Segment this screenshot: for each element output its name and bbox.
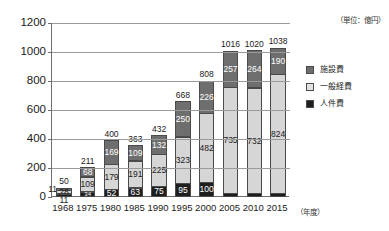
bar-segment-facility[interactable]: 257: [223, 51, 239, 88]
bar-segment-personnel[interactable]: 24: [247, 193, 263, 196]
bar-segment-general[interactable]: 323: [175, 137, 191, 184]
bar-segment-facility[interactable]: 226: [199, 81, 215, 114]
y-axis-label: 1000: [20, 46, 46, 58]
bar-segment-personnel[interactable]: 11: [56, 194, 72, 197]
bar-total-label: 432: [152, 125, 166, 134]
legend-item[interactable]: 一般経費: [306, 83, 352, 91]
bar-segment-general[interactable]: 482: [199, 113, 215, 183]
gridline: [52, 23, 290, 24]
bar-segment-personnel[interactable]: 100: [199, 182, 215, 197]
bar-segment-personnel[interactable]: 75: [151, 186, 167, 197]
y-axis-tick: [48, 168, 52, 169]
x-axis-label-2015: 2015: [267, 203, 288, 213]
y-axis-label: 200: [27, 162, 46, 174]
bar-segment-general[interactable]: 735: [223, 87, 239, 194]
bar-chart: （単位：億円） 11281150681093421116917952400109…: [0, 0, 389, 231]
bar-group[interactable]: 190824241038: [270, 48, 286, 196]
gridline: [52, 168, 290, 169]
y-axis-tick: [48, 81, 52, 82]
y-axis-tick: [48, 139, 52, 140]
segment-value-label: 52: [107, 189, 116, 198]
bar-segment-personnel[interactable]: 34: [80, 192, 96, 197]
segment-value-label: 482: [200, 144, 214, 153]
bar-segment-facility[interactable]: 169: [104, 140, 120, 165]
x-axis-label-1975: 1975: [76, 203, 97, 213]
gridline: [52, 139, 290, 140]
segment-value-label: 226: [200, 93, 214, 102]
bar-total-label: 668: [176, 91, 190, 100]
segment-value-label: 68: [83, 168, 92, 177]
bar-group[interactable]: 11281150: [56, 188, 72, 196]
bar-segment-personnel[interactable]: 24: [223, 193, 239, 196]
legend-label: 人件費: [320, 100, 344, 108]
bar-segment-facility[interactable]: 250: [175, 101, 191, 137]
chart-legend: 施設費一般経費人件費: [306, 66, 352, 108]
x-axis-label-1968: 1968: [52, 203, 73, 213]
segment-value-label: 75: [154, 187, 163, 196]
segment-value-label: 34: [84, 191, 91, 197]
bar-total-label: 211: [81, 157, 95, 166]
x-axis-label-2000: 2000: [195, 203, 216, 213]
segment-value-label: 63: [131, 188, 140, 197]
legend-label: 一般経費: [320, 83, 352, 91]
segment-value-label: 250: [176, 115, 190, 124]
bar-total-label: 1016: [221, 40, 240, 49]
legend-item[interactable]: 施設費: [306, 66, 352, 74]
bar-segment-personnel[interactable]: 52: [104, 189, 120, 197]
segment-value-label: 323: [176, 156, 190, 165]
x-axis-label-2005: 2005: [219, 203, 240, 213]
bar-segment-general[interactable]: 824: [270, 74, 286, 193]
bar-total-label: 1020: [245, 40, 264, 49]
bar-total-label: 400: [104, 130, 118, 139]
legend-swatch-icon: [306, 83, 314, 91]
bar-total-label: 808: [200, 70, 214, 79]
y-axis-tick: [48, 23, 52, 24]
bar-group[interactable]: 10919163363: [128, 145, 144, 196]
bar-segment-general[interactable]: 109: [80, 177, 96, 193]
x-axis-label-2010: 2010: [243, 203, 264, 213]
y-axis-tick: [48, 110, 52, 111]
x-axis-label-1990: 1990: [148, 203, 169, 213]
bar-segment-general[interactable]: 191: [128, 161, 144, 189]
bar-segment-facility[interactable]: 109: [128, 145, 144, 161]
y-axis-label: 0: [40, 191, 46, 203]
bar-segment-facility[interactable]: 264: [247, 50, 263, 88]
bar-group[interactable]: 6810934211: [80, 167, 96, 196]
x-axis-label-1980: 1980: [100, 203, 121, 213]
unit-caption: （単位：億円）: [336, 14, 385, 25]
segment-value-label: 109: [128, 149, 142, 158]
plot-area: 1128115068109342111691795240010919163363…: [51, 23, 289, 197]
segment-value-label: 824: [271, 130, 285, 139]
x-axis-label-1995: 1995: [171, 203, 192, 213]
y-axis-label: 600: [27, 104, 46, 116]
segment-value-label: 179: [104, 173, 118, 182]
legend-swatch-icon: [306, 66, 314, 74]
y-axis-label: 800: [27, 75, 46, 87]
bar-group[interactable]: 257735241016: [223, 51, 239, 196]
legend-label: 施設費: [320, 66, 344, 74]
gridline: [52, 81, 290, 82]
segment-value-label: 257: [223, 65, 237, 74]
bar-group[interactable]: 264732241020: [247, 50, 263, 196]
bar-group[interactable]: 25032395668: [175, 101, 191, 196]
bar-segment-general[interactable]: 225: [151, 154, 167, 187]
y-axis-label: 400: [27, 133, 46, 145]
bar-segment-personnel[interactable]: 24: [270, 193, 286, 196]
bar-segment-personnel[interactable]: 63: [128, 188, 144, 197]
x-axis-label-1985: 1985: [124, 203, 145, 213]
bars-layer: 1128115068109342111691795240010919163363…: [52, 22, 290, 196]
legend-item[interactable]: 人件費: [306, 100, 352, 108]
segment-value-label: 190: [271, 57, 285, 66]
gridline: [52, 110, 290, 111]
bar-segment-general[interactable]: 732: [247, 88, 263, 194]
bar-total-label: 1038: [269, 37, 288, 46]
y-axis-label: 1200: [20, 17, 46, 29]
segment-value-label: 109: [81, 180, 95, 189]
bar-group[interactable]: 13222575432: [151, 135, 167, 196]
segment-value-label: 95: [178, 186, 187, 195]
bar-segment-personnel[interactable]: 95: [175, 183, 191, 197]
bar-total-label: 50: [59, 177, 68, 186]
gridline: [52, 52, 290, 53]
y-axis-tick: [48, 52, 52, 53]
segment-value-label: 191: [128, 170, 142, 179]
